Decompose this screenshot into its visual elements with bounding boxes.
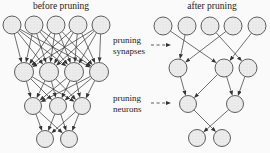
after-pruning-title: after pruning bbox=[187, 1, 236, 12]
neuron-node bbox=[248, 17, 266, 35]
synapse-edge bbox=[36, 114, 40, 126]
neuron-node bbox=[224, 17, 242, 35]
pruning-synapses-label: pruning synapses bbox=[113, 35, 145, 56]
neuron-node bbox=[40, 63, 59, 82]
synapse-edge bbox=[207, 110, 228, 129]
neuron-node bbox=[69, 16, 87, 34]
synapse-edge bbox=[26, 81, 29, 93]
neuron-node bbox=[3, 16, 21, 34]
neuron-node bbox=[92, 16, 110, 34]
synapse-edge bbox=[233, 33, 252, 57]
pruning-neurons-label: pruning neurons bbox=[113, 93, 142, 114]
synapse-edge bbox=[50, 114, 55, 126]
synapse-edge bbox=[227, 77, 231, 91]
synapse-edge bbox=[180, 77, 184, 91]
neuron-node bbox=[214, 130, 231, 147]
before-pruning-title: before pruning bbox=[33, 1, 89, 12]
neuron-node bbox=[25, 98, 42, 115]
neuron-node bbox=[50, 98, 67, 115]
synapse-edge bbox=[181, 35, 185, 54]
neuron-node bbox=[15, 63, 34, 82]
synapse-edge bbox=[194, 110, 212, 128]
synapse-edge bbox=[14, 34, 20, 58]
synapse-edge bbox=[240, 76, 245, 91]
neuron-node bbox=[180, 96, 197, 113]
pruning-neurons-line1: pruning bbox=[113, 93, 142, 104]
neuron-node bbox=[74, 98, 91, 115]
pruning-figure: before pruning after pruning pruning syn… bbox=[0, 0, 270, 153]
neuron-node bbox=[239, 59, 257, 77]
after-network bbox=[154, 17, 266, 147]
synapse-edge bbox=[88, 80, 95, 93]
neuron-node bbox=[90, 63, 109, 82]
neuron-node bbox=[215, 59, 233, 77]
synapse-edge bbox=[18, 32, 40, 60]
synapse-edge bbox=[74, 114, 79, 126]
neuron-node bbox=[37, 131, 54, 148]
neuron-node bbox=[169, 59, 187, 77]
synapse-edge bbox=[40, 32, 65, 61]
before-network bbox=[3, 16, 110, 148]
pruning-neurons-line2: neurons bbox=[113, 104, 142, 115]
synapse-edge bbox=[32, 32, 51, 59]
neuron-node bbox=[189, 130, 206, 147]
neuron-node bbox=[178, 17, 196, 35]
synapse-edge bbox=[51, 81, 54, 93]
synapse-edge bbox=[75, 34, 77, 57]
network-diagram-canvas bbox=[0, 0, 270, 153]
neuron-node bbox=[65, 63, 84, 82]
synapse-edge bbox=[100, 34, 101, 57]
neuron-node bbox=[61, 131, 78, 148]
synapse-edge bbox=[198, 74, 218, 94]
pruning-synapses-line2: synapses bbox=[113, 46, 145, 57]
neuron-node bbox=[25, 16, 43, 34]
neuron-node bbox=[154, 17, 172, 35]
neuron-node bbox=[47, 16, 65, 34]
neuron-node bbox=[227, 96, 244, 113]
pruning-synapses-line1: pruning bbox=[113, 35, 145, 46]
synapse-edge bbox=[170, 31, 212, 60]
synapse-edge bbox=[189, 31, 226, 59]
synapse-edge bbox=[37, 34, 45, 58]
neuron-node bbox=[201, 17, 219, 35]
